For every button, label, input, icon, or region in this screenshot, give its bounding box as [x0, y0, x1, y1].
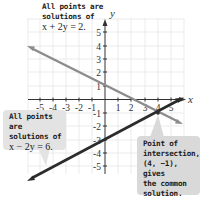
- svg-text:3: 3: [96, 55, 101, 65]
- y-axis-label: y: [109, 7, 115, 19]
- svg-text:4: 4: [96, 42, 101, 52]
- callout-text: intersection,: [143, 149, 200, 159]
- callout-text: Point of: [143, 139, 200, 149]
- x-axis-label: x: [187, 93, 193, 105]
- svg-text:2: 2: [129, 103, 134, 113]
- svg-text:-4: -4: [93, 149, 101, 159]
- svg-text:2: 2: [96, 68, 101, 78]
- intersection-point: [156, 111, 160, 115]
- svg-text:-2: -2: [75, 103, 83, 113]
- svg-text:-1: -1: [93, 109, 101, 119]
- callout-intersection: Point of intersection, (4, −1), gives th…: [137, 136, 200, 195]
- callout-line-2: All points are solutions of x − 2y = 6.: [3, 110, 66, 150]
- svg-text:-2: -2: [93, 122, 101, 132]
- svg-text:1: 1: [116, 103, 121, 113]
- callout-text: the common: [143, 179, 200, 189]
- equation-label: x + 2y = 2.: [42, 22, 106, 32]
- equation-label: x − 2y = 6.: [9, 142, 66, 152]
- svg-text:-5: -5: [93, 162, 101, 172]
- system-of-equations-graph: x y -5 -4 -3 -2 -1 1 2 3 4 5 5 4 3 2 1 -…: [0, 0, 203, 204]
- callout-text: solution.: [143, 189, 200, 199]
- callout-text: (4, −1), gives: [143, 159, 200, 179]
- callout-text: All points are: [9, 112, 66, 132]
- callout-line-1: All points are solutions of x + 2y = 2.: [42, 2, 106, 32]
- callout-text: All points are: [42, 2, 106, 12]
